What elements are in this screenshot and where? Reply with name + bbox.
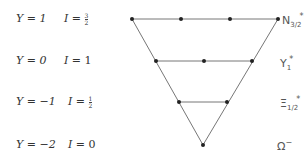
isospin-label: I = 1 xyxy=(64,54,92,67)
isospin-prefix: I = xyxy=(64,12,85,25)
isospin-prefix: I = xyxy=(68,138,89,151)
isospin-value: 0 xyxy=(89,138,96,151)
particle-label-y: Y1* xyxy=(280,55,293,72)
frac-den: 2 xyxy=(85,20,89,26)
particle-symbol: N xyxy=(282,14,290,27)
isospin-fraction: 12 xyxy=(89,96,93,109)
particle-label-n: N3/2* xyxy=(282,12,304,29)
hypercharge-label: Y = 0 xyxy=(16,54,46,67)
isospin-value: 1 xyxy=(85,54,92,67)
particle-sub: 1 xyxy=(287,64,291,72)
left-edge xyxy=(132,19,203,145)
particle-label-omega: Ω− xyxy=(277,138,292,153)
particle-label-xi: Ξ1/2* xyxy=(280,95,300,112)
particle-sub: 3/2 xyxy=(290,21,301,29)
particle-symbol: Ξ xyxy=(280,97,287,110)
state-points xyxy=(130,17,280,147)
isospin-label: I = 32 xyxy=(64,12,88,26)
hypercharge-label: Y = 1 xyxy=(16,12,46,25)
particle-sup: − xyxy=(285,138,292,147)
hypercharge-label: Y = −2 xyxy=(16,138,56,151)
right-edge xyxy=(203,19,278,145)
isospin-fraction: 32 xyxy=(85,13,89,26)
particle-sup: * xyxy=(300,12,304,21)
isospin-label: I = 12 xyxy=(68,95,92,109)
particle-sub: 1/2 xyxy=(287,104,298,112)
particle-sup: * xyxy=(296,95,300,104)
particle-sup: * xyxy=(289,55,293,64)
hypercharge-label: Y = −1 xyxy=(16,95,56,108)
isospin-prefix: I = xyxy=(64,54,85,67)
isospin-label: I = 0 xyxy=(68,138,96,151)
frac-den: 2 xyxy=(89,103,93,109)
isospin-prefix: I = xyxy=(68,95,89,108)
particle-symbol: Y xyxy=(280,57,287,70)
